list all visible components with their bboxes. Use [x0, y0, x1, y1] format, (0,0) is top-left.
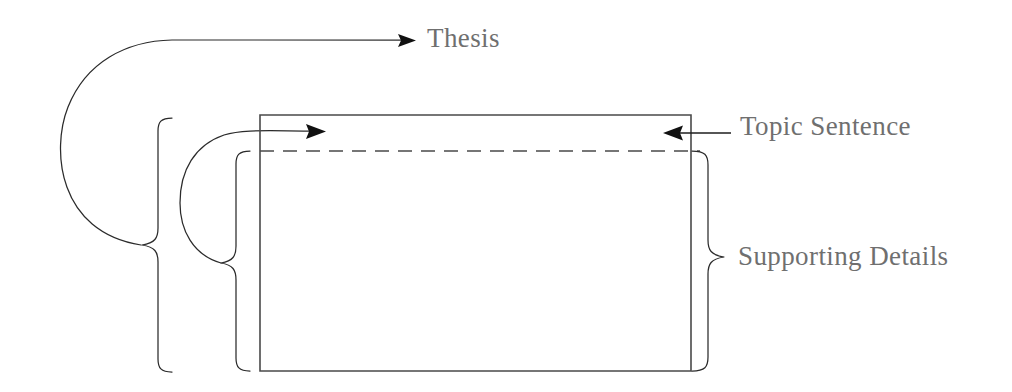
diagram-canvas: [0, 0, 1012, 392]
topic-sentence-curve-connector: [180, 124, 326, 263]
paragraph-rectangle: [260, 115, 691, 371]
label-topic-sentence: Topic Sentence: [740, 113, 911, 140]
inner-left-brace: [221, 151, 250, 371]
essay-structure-diagram: Thesis Topic Sentence Supporting Details: [0, 0, 1012, 392]
label-supporting-details: Supporting Details: [738, 243, 948, 270]
topic-sentence-arrow: [663, 126, 731, 141]
thesis-curve-connector: [61, 34, 416, 245]
outer-left-brace: [142, 118, 172, 372]
right-brace: [692, 151, 724, 371]
label-thesis: Thesis: [427, 25, 500, 52]
